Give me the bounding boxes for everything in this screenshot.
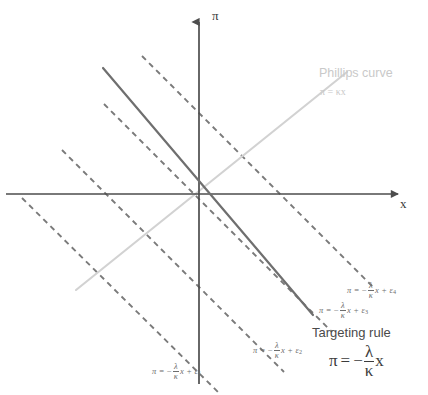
eq3-denominator: κ <box>340 311 346 320</box>
shock-line-eps2 <box>62 150 284 372</box>
eq3-fraction: λ κ <box>340 301 346 320</box>
eq4-equals: = <box>354 285 359 295</box>
phillips-curve-line <box>76 72 347 290</box>
eq2-denominator: κ <box>274 351 280 360</box>
diagram-canvas: π x Phillips curve π = κx π = − λ κ x + … <box>0 0 428 395</box>
eq4-denominator: κ <box>368 291 374 300</box>
shock-line-group <box>22 56 374 392</box>
eq2-equals: = <box>260 345 265 355</box>
eq2-plus: + <box>288 345 293 355</box>
main-numerator: λ <box>364 343 374 362</box>
main-denominator: κ <box>364 362 375 380</box>
eq3-plus: + <box>354 305 359 315</box>
targeting-rule-equation: π = − λ κ x <box>329 343 384 380</box>
y-axis-label: π <box>212 8 219 24</box>
eq1-equals: = <box>159 366 164 376</box>
eq3-subscript: 3 <box>365 309 368 315</box>
phillips-curve-equation: π = κx <box>320 86 346 97</box>
shock-equation-eps4: π = − λ κ x + ε4 <box>347 281 396 300</box>
eq4-fraction: λ κ <box>368 281 374 300</box>
phillips-curve-title: Phillips curve <box>319 66 393 80</box>
eq1-fraction: λ κ <box>173 362 179 381</box>
eq3-minus: − <box>334 305 339 315</box>
eq2-variable: x <box>281 345 285 355</box>
main-minus: − <box>353 351 363 371</box>
shock-equation-eps2: π = − λ κ x + ε2 <box>253 341 302 360</box>
targeting-rule-title: Targeting rule <box>312 325 391 340</box>
eq2-minus: − <box>268 345 273 355</box>
eq4-variable: x <box>375 285 379 295</box>
shock-equation-eps3: π = − λ κ x + ε3 <box>319 301 368 320</box>
shock-equation-eps1: π = − λ κ x + ε1 <box>152 362 201 381</box>
eq4-lhs: π <box>347 285 351 295</box>
eq1-lhs: π <box>152 366 156 376</box>
eq1-subscript: 1 <box>198 370 201 376</box>
eq2-lhs: π <box>253 345 257 355</box>
eq3-variable: x <box>347 305 351 315</box>
x-axis-label: x <box>400 196 407 212</box>
eq4-plus: + <box>382 285 387 295</box>
main-lhs: π <box>329 351 338 371</box>
eq1-variable: x <box>180 366 184 376</box>
eq1-denominator: κ <box>173 372 179 381</box>
eq2-subscript: 2 <box>299 349 302 355</box>
main-equals: = <box>341 351 351 371</box>
eq3-lhs: π <box>319 305 323 315</box>
eq3-equals: = <box>326 305 331 315</box>
eq1-minus: − <box>167 366 172 376</box>
targeting-rule-line <box>103 68 313 315</box>
eq2-fraction: λ κ <box>274 341 280 360</box>
main-variable: x <box>375 351 384 371</box>
eq1-plus: + <box>187 366 192 376</box>
eq4-subscript: 4 <box>393 289 396 295</box>
main-fraction: λ κ <box>364 343 375 380</box>
eq4-minus: − <box>362 285 367 295</box>
